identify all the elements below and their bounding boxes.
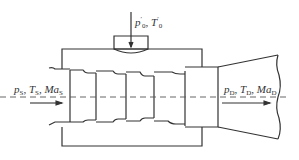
suction-arrow-icon	[30, 101, 62, 105]
stage-4	[154, 71, 185, 126]
top-inlet-label: p′0, T′0	[135, 16, 162, 30]
top-inlet-arrow-icon	[129, 12, 133, 47]
stage-3	[126, 72, 154, 121]
stage-2	[96, 71, 126, 122]
discharge-arrow-icon	[222, 101, 270, 105]
stage-1	[70, 70, 96, 122]
suction-inlet-label: pS, TS, MaS	[14, 84, 63, 97]
inlet-lip-top	[49, 68, 70, 69]
inlet-lip-bottom	[49, 122, 70, 125]
outer-casing	[62, 49, 202, 146]
discharge-outlet-label: pD, TD, MaD	[224, 84, 276, 97]
